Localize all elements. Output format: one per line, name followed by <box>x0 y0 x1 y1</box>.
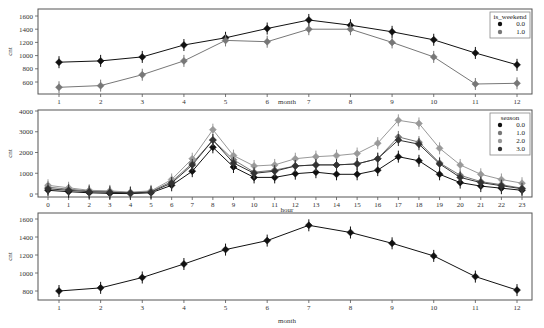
y-tick-label: 800 <box>23 65 34 73</box>
y-axis-label: cnt <box>6 47 14 56</box>
legend-marker-icon <box>498 22 502 26</box>
x-tick-label: 1 <box>57 304 61 312</box>
x-tick-label: 19 <box>436 201 444 209</box>
legend-entry-label: 0.0 <box>516 20 525 28</box>
x-tick-label: 10 <box>251 201 259 209</box>
x-tick-label: 12 <box>514 304 522 312</box>
x-tick-label: 2 <box>87 201 91 209</box>
x-tick-label: 3 <box>141 98 145 106</box>
legend-marker-icon <box>498 147 502 151</box>
legend-marker-icon <box>498 30 502 34</box>
y-tick-label: 800 <box>23 288 34 296</box>
plot-frame <box>38 213 532 300</box>
legend-entry-label: 3.0 <box>516 145 525 153</box>
y-tick-label: 2000 <box>19 149 34 157</box>
legend-marker-icon <box>498 139 502 143</box>
y-tick-label: 600 <box>23 79 34 87</box>
x-tick-label: 14 <box>333 201 341 209</box>
x-tick-label: 21 <box>477 201 485 209</box>
x-axis-label: month <box>278 98 296 106</box>
x-tick-label: 8 <box>349 304 353 312</box>
x-tick-label: 9 <box>232 201 236 209</box>
x-tick-label: 4 <box>182 98 186 106</box>
x-tick-label: 5 <box>224 304 228 312</box>
x-tick-label: 11 <box>472 304 479 312</box>
legend-entry-label: 1.0 <box>516 28 525 36</box>
legend-entry-label: 1.0 <box>516 129 525 137</box>
x-tick-label: 9 <box>390 304 394 312</box>
y-tick-label: 1400 <box>19 234 34 242</box>
legend: season0.01.02.03.0 <box>490 113 530 155</box>
x-tick-label: 5 <box>224 98 228 106</box>
x-tick-label: 12 <box>514 98 522 106</box>
x-tick-label: 3 <box>108 201 112 209</box>
y-tick-label: 1000 <box>19 52 34 60</box>
chart-panel-3: 8001000120014001600123456789101112monthc… <box>6 213 532 325</box>
chart-panel-1: 6008001000120014001600123456789101112mon… <box>6 9 532 106</box>
y-axis-label: cnt <box>6 149 14 158</box>
y-tick-label: 1000 <box>19 170 34 178</box>
legend-entry-label: 0.0 <box>516 121 525 129</box>
x-tick-label: 7 <box>307 98 311 106</box>
y-tick-label: 1400 <box>19 26 34 34</box>
x-tick-label: 7 <box>191 201 195 209</box>
x-tick-label: 22 <box>498 201 506 209</box>
x-tick-label: 10 <box>430 304 438 312</box>
x-tick-label: 4 <box>129 201 133 209</box>
x-tick-label: 4 <box>182 304 186 312</box>
x-tick-label: 2 <box>99 304 103 312</box>
y-tick-label: 4000 <box>19 108 34 116</box>
x-tick-label: 5 <box>149 201 153 209</box>
y-tick-label: 0 <box>30 191 34 199</box>
x-tick-label: 17 <box>395 201 403 209</box>
y-tick-label: 1600 <box>19 13 34 21</box>
x-tick-label: 8 <box>211 201 215 209</box>
x-tick-label: 20 <box>457 201 465 209</box>
x-tick-label: 13 <box>312 201 320 209</box>
x-tick-label: 10 <box>430 98 438 106</box>
legend: is_weekend0.01.0 <box>490 12 530 38</box>
chart-canvas: 6008001000120014001600123456789101112mon… <box>0 0 544 328</box>
x-tick-label: 15 <box>354 201 362 209</box>
chart-panel-2: 0100020003000400001234567891011121314151… <box>6 108 532 215</box>
y-tick-label: 1000 <box>19 270 34 278</box>
x-tick-label: 6 <box>265 304 269 312</box>
y-tick-label: 3000 <box>19 128 34 136</box>
legend-entry-label: 2.0 <box>516 137 525 145</box>
y-axis-label: cnt <box>6 252 14 261</box>
legend-marker-icon <box>498 123 502 127</box>
x-tick-label: 0 <box>46 201 50 209</box>
plot-frame <box>38 9 532 94</box>
x-axis-label: month <box>278 317 296 325</box>
x-tick-label: 6 <box>265 98 269 106</box>
x-tick-label: 1 <box>57 98 61 106</box>
x-tick-label: 11 <box>472 98 479 106</box>
x-tick-label: 1 <box>67 201 71 209</box>
x-tick-label: 16 <box>374 201 382 209</box>
x-tick-label: 18 <box>415 201 423 209</box>
legend-marker-icon <box>498 131 502 135</box>
x-tick-label: 9 <box>390 98 394 106</box>
x-tick-label: 11 <box>271 201 278 209</box>
y-tick-label: 1200 <box>19 252 34 260</box>
y-tick-label: 1600 <box>19 216 34 224</box>
y-tick-label: 1200 <box>19 39 34 47</box>
x-tick-label: 2 <box>99 98 103 106</box>
x-tick-label: 7 <box>307 304 311 312</box>
x-tick-label: 6 <box>170 201 174 209</box>
x-tick-label: 8 <box>349 98 353 106</box>
x-tick-label: 3 <box>141 304 145 312</box>
x-tick-label: 23 <box>519 201 527 209</box>
